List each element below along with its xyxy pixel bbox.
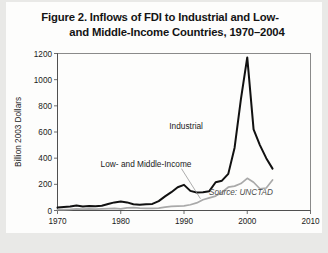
y-tick-label: 1200 [34, 50, 53, 59]
series-label-low-and-middle-income: Low- and Middle-Income [101, 159, 192, 169]
source-annotation: Source: UNCTAD [209, 188, 273, 197]
fdi-line-chart: 020040060080010001200 197019801990200020… [0, 0, 328, 253]
y-tick-label: 200 [38, 180, 52, 189]
y-axis-title: Billion 2003 Dollars [14, 97, 23, 167]
y-axis-ticks: 020040060080010001200 [34, 50, 58, 216]
x-tick-label: 2000 [238, 217, 257, 226]
chart-plot-area: 020040060080010001200 197019801990200020… [0, 0, 328, 253]
x-tick-label: 1970 [48, 217, 67, 226]
y-tick-label: 600 [38, 128, 52, 137]
y-tick-label: 800 [38, 102, 52, 111]
x-tick-label: 2010 [301, 217, 320, 226]
y-tick-label: 0 [47, 207, 52, 216]
y-tick-label: 1000 [34, 76, 53, 85]
annotation-leader-line [181, 169, 200, 199]
figure-container: Figure 2. Inflows of FDI to Industrial a… [0, 0, 328, 253]
series-label-industrial: Industrial [169, 121, 203, 131]
y-tick-label: 400 [38, 154, 52, 163]
x-tick-label: 1990 [175, 217, 194, 226]
series-industrial [58, 57, 273, 207]
y-axis-title-text: Billion 2003 Dollars [14, 97, 23, 167]
x-tick-label: 1980 [112, 217, 131, 226]
x-axis-ticks: 19701980199020002010 [48, 211, 320, 227]
